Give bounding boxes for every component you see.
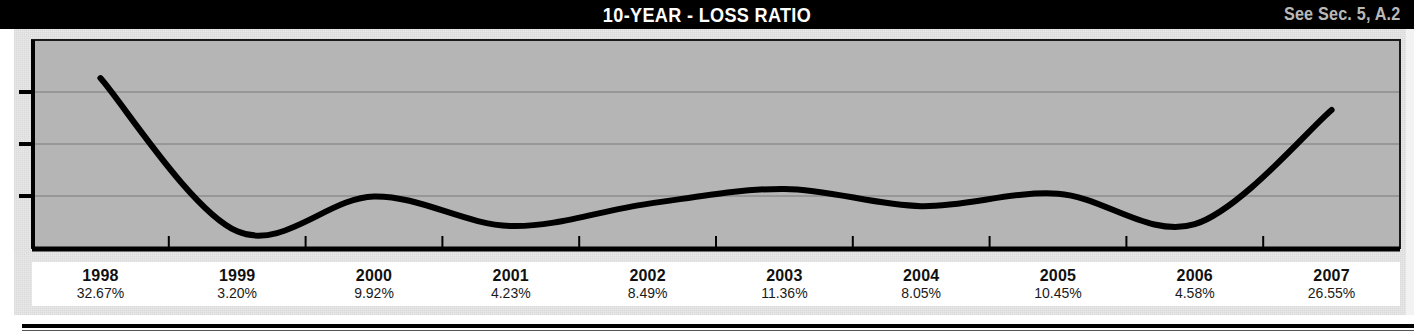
- axis-label-2001: 20014.23%: [442, 262, 579, 306]
- axis-label-2002: 20028.49%: [579, 262, 716, 306]
- axis-label-value: 3.20%: [217, 286, 257, 301]
- axis-label-year: 2003: [766, 268, 802, 285]
- axis-label-year: 2000: [356, 268, 392, 285]
- axis-label-year: 2006: [1177, 268, 1213, 285]
- axis-label-2006: 20064.58%: [1126, 262, 1263, 306]
- plot-area: [0, 29, 1414, 259]
- axis-label-value: 4.58%: [1175, 286, 1215, 301]
- axis-label-value: 9.92%: [354, 286, 394, 301]
- axis-label-value: 32.67%: [77, 286, 124, 301]
- section-reference: See Sec. 5, A.2: [1284, 0, 1400, 29]
- axis-label-1998: 199832.67%: [32, 262, 169, 306]
- axis-label-value: 4.23%: [491, 286, 531, 301]
- axis-label-year: 1999: [219, 268, 255, 285]
- axis-label-value: 8.49%: [628, 286, 668, 301]
- footer-divider: [22, 324, 1414, 328]
- axis-label-strip: 199832.67%19993.20%20009.92%20014.23%200…: [32, 262, 1400, 306]
- loss-ratio-chart-panel: 10-YEAR - LOSS RATIO See Sec. 5, A.2 199…: [0, 0, 1414, 336]
- axis-label-1999: 19993.20%: [169, 262, 306, 306]
- axis-label-year: 2007: [1313, 268, 1349, 285]
- axis-label-value: 11.36%: [761, 286, 807, 301]
- axis-label-2005: 200510.45%: [990, 262, 1127, 306]
- axis-label-2003: 200311.36%: [716, 262, 853, 306]
- axis-label-2007: 200726.55%: [1263, 262, 1400, 306]
- axis-label-value: 26.55%: [1308, 286, 1355, 301]
- loss-ratio-line-chart: [0, 29, 1414, 259]
- y-axis-ticks: [19, 92, 32, 196]
- header-bar: 10-YEAR - LOSS RATIO See Sec. 5, A.2: [0, 0, 1414, 29]
- footer-divider-secondary: [22, 330, 1414, 331]
- axis-label-value: 8.05%: [901, 286, 941, 301]
- axis-label-year: 2001: [493, 268, 529, 285]
- axis-label-year: 2002: [629, 268, 665, 285]
- page-title: 10-YEAR - LOSS RATIO: [99, 0, 1315, 29]
- axis-label-2004: 20048.05%: [853, 262, 990, 306]
- axis-label-2000: 20009.92%: [306, 262, 443, 306]
- axis-label-year: 1998: [82, 268, 118, 285]
- axis-label-year: 2005: [1040, 268, 1076, 285]
- axis-label-year: 2004: [903, 268, 939, 285]
- axis-label-value: 10.45%: [1034, 286, 1081, 301]
